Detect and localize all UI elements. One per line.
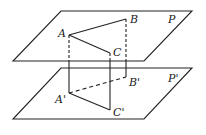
label-b-prime: B'	[128, 76, 140, 89]
plane-p-prime	[13, 68, 192, 119]
label-p-prime: P'	[167, 72, 178, 85]
label-c-prime: C'	[113, 106, 124, 119]
label-a-prime: A'	[54, 93, 66, 106]
label-a: A	[57, 27, 66, 40]
label-p: P	[167, 13, 176, 26]
plane-p	[13, 11, 192, 61]
label-b: B	[129, 13, 138, 26]
label-c: C	[113, 46, 122, 59]
parallel-planes-diagram: A B C P A' B' C' P'	[0, 0, 206, 135]
